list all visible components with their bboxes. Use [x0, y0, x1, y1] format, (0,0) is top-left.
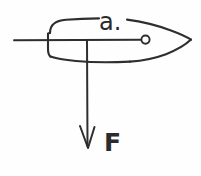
hull-top-curve-right	[127, 20, 191, 40]
hull-top-curve-left	[50, 18, 99, 33]
hull-bottom-curve	[51, 57, 131, 63]
hull-stern-blunt-end	[48, 33, 51, 57]
hull-bow-lower	[130, 40, 191, 62]
pivot-circle-icon	[141, 36, 149, 44]
distance-label: a.	[99, 10, 121, 34]
force-arrow-shaft	[87, 40, 88, 146]
force-label: F	[104, 130, 121, 155]
physics-diagram-figure: a. F	[0, 0, 201, 176]
